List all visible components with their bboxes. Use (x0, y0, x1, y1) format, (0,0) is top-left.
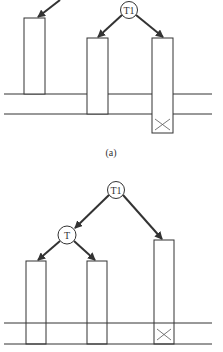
arrow-t1-to-right (136, 15, 163, 37)
node-t-label: T (64, 230, 70, 241)
box-right (154, 240, 174, 344)
arrow-t1-to-right (123, 195, 162, 239)
arrow-t-to-left (38, 241, 60, 260)
arrow-t1-to-middle (98, 15, 122, 37)
diagram-canvas: T1 (a) T1 T (0, 0, 223, 352)
figure-b: T1 T (4, 182, 212, 345)
caption-a: (a) (105, 147, 116, 159)
node-t1-a-label: T1 (123, 5, 134, 16)
box-middle (87, 261, 107, 344)
box-left (26, 261, 46, 344)
box-middle (87, 38, 108, 114)
cross-icon (157, 329, 171, 340)
box-left (24, 18, 45, 94)
arrow-to-left-box (38, 0, 60, 17)
arrow-t1-to-t (75, 195, 109, 228)
arrow-t-to-middle (74, 241, 95, 260)
node-t1-b-label: T1 (110, 185, 121, 196)
box-right (152, 38, 173, 133)
figure-a: T1 (a) (4, 0, 212, 159)
